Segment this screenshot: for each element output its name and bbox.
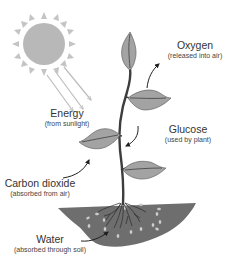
- oxygen-subtitle: (released into air): [165, 52, 225, 59]
- oxygen-label: Oxygen (released into air): [165, 40, 225, 59]
- energy-title: Energy: [37, 108, 97, 119]
- leaf-lower-right: [123, 161, 166, 179]
- water-label: Water (absorbed through soil): [5, 234, 95, 253]
- glucose-arrow: [126, 126, 138, 146]
- oxygen-arrow: [147, 64, 159, 88]
- carbon-dioxide-label: Carbon dioxide (absorbed from air): [0, 178, 80, 197]
- sunlight-rays: [47, 67, 91, 111]
- leaf-upper-right: [128, 90, 171, 110]
- glucose-title: Glucose: [153, 124, 223, 135]
- energy-subtitle: (from sunlight): [37, 120, 97, 127]
- water-title: Water: [5, 234, 95, 245]
- carbon-dioxide-subtitle: (absorbed from air): [0, 190, 80, 197]
- carbon-dioxide-title: Carbon dioxide: [0, 178, 80, 189]
- sun-icon: [12, 12, 76, 76]
- carbon-dioxide-arrow: [63, 160, 89, 178]
- glucose-label: Glucose (used by plant): [153, 124, 223, 143]
- glucose-subtitle: (used by plant): [153, 136, 223, 143]
- leaves: [79, 32, 171, 179]
- plant-stem: [119, 68, 130, 205]
- water-subtitle: (absorbed through soil): [5, 246, 95, 253]
- oxygen-title: Oxygen: [165, 40, 225, 51]
- energy-label: Energy (from sunlight): [37, 108, 97, 127]
